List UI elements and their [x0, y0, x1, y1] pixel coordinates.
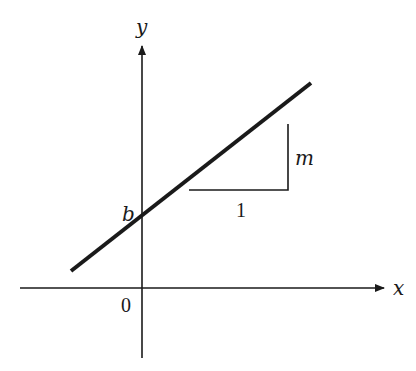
- y-axis-label: y: [135, 15, 148, 39]
- line-graph: y x 0 b m 1: [0, 0, 416, 371]
- graph-line: [71, 83, 311, 271]
- slope-triangle: [189, 124, 288, 190]
- origin-label: 0: [121, 294, 131, 316]
- slope-rise-label: m: [295, 146, 314, 170]
- diagram-canvas: y x 0 b m 1: [0, 0, 416, 371]
- x-axis-label: x: [393, 276, 404, 300]
- intercept-label: b: [122, 202, 135, 226]
- slope-run-label: 1: [236, 199, 246, 221]
